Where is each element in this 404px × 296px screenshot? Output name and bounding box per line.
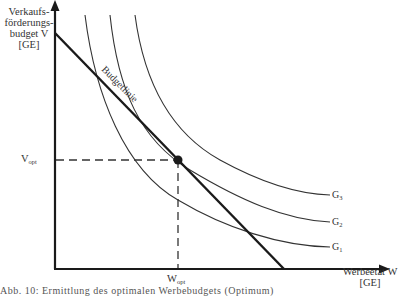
x-axis-unit: [GE]: [336, 277, 404, 288]
y-axis-label-line1: Verkaufs-: [2, 6, 56, 17]
w-opt-letter: W: [167, 273, 177, 284]
curve-g1-subscript: 1: [339, 246, 342, 253]
curve-g3-label: G3: [332, 189, 342, 203]
y-axis-label: Verkaufs- förderungs- budget V [GE]: [2, 6, 56, 50]
curve-g1-label: G1: [332, 241, 342, 255]
y-axis-label-line2: förderungs-: [2, 17, 56, 28]
v-opt-letter: V: [21, 153, 29, 164]
budget-line: [55, 33, 284, 269]
v-opt-label: Vopt: [21, 153, 37, 167]
figure-caption: Abb. 10: Ermittlung des optimalen Werbeb…: [0, 285, 274, 296]
w-opt-subscript: opt: [177, 278, 185, 285]
curve-g3: [135, 15, 330, 195]
x-axis-label: Werbeetat W [GE]: [336, 266, 404, 288]
x-axis-label-text: Werbeetat W: [336, 266, 404, 277]
curve-g2-label: G2: [332, 216, 342, 230]
curve-g3-subscript: 3: [339, 194, 342, 201]
v-opt-subscript: opt: [29, 158, 37, 165]
optimum-point: [174, 156, 183, 165]
y-axis-unit: [GE]: [2, 39, 56, 50]
curve-g2-subscript: 2: [339, 221, 342, 228]
y-axis-label-line3: budget V: [2, 28, 56, 39]
curve-g1: [85, 15, 330, 247]
